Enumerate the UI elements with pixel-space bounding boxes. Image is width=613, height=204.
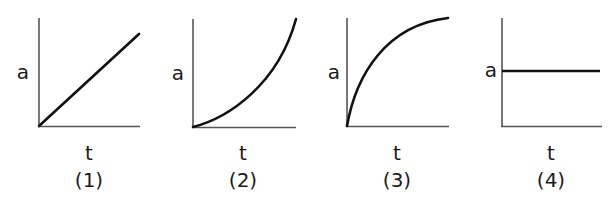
x-axis-label: t [377,143,417,163]
graph-caption: (2) [213,170,273,190]
linear-curve [39,34,139,126]
y-axis-label: a [327,62,341,82]
y-axis-label: a [171,63,185,83]
graph-caption: (4) [521,170,581,190]
x-axis-label: t [69,143,109,163]
y-axis-label: a [16,62,30,82]
y-axis-label: a [484,60,498,80]
x-axis-label: t [223,143,263,163]
graph-3: a t (3) [306,0,459,204]
graph-4: a t (4) [459,0,613,204]
graph-2: a t (2) [153,0,306,204]
x-axis-label: t [531,143,571,163]
concave-up-curve [193,19,296,127]
graph-caption: (3) [367,170,427,190]
graph-caption: (1) [59,170,119,190]
graph-1: a t (1) [0,0,153,204]
concave-down-curve [347,18,448,126]
